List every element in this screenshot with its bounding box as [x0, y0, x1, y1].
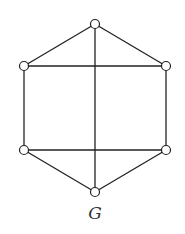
vertex-upper-right: [162, 62, 171, 71]
graph-diagram: G: [0, 0, 185, 234]
vertex-lower-left: [20, 146, 29, 155]
vertex-bottom: [91, 188, 100, 197]
edge-top-upper-right: [95, 24, 166, 66]
edge-lower-right-bottom: [95, 150, 166, 192]
vertex-upper-left: [20, 62, 29, 71]
vertex-top: [91, 20, 100, 29]
vertex-lower-right: [162, 146, 171, 155]
edge-lower-left-bottom: [24, 150, 95, 192]
graph-edges: [24, 24, 166, 192]
edge-top-upper-left: [24, 24, 95, 66]
graph-label: G: [88, 203, 102, 223]
